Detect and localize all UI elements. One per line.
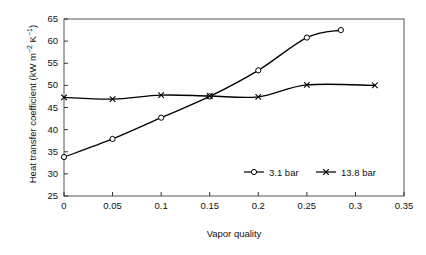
data-point-3-1-bar bbox=[338, 27, 343, 32]
data-point-3-1-bar bbox=[159, 115, 164, 120]
data-point-3-1-bar bbox=[256, 68, 261, 73]
data-point-3-1-bar bbox=[304, 35, 309, 40]
data-point-3-1-bar bbox=[61, 154, 66, 159]
series-line-3-1-bar bbox=[64, 30, 341, 157]
chart-figure: Heat transfer coefficient (kW m−2 K−1) V… bbox=[0, 0, 426, 255]
plot-area: 3.1 bar13.8 bar bbox=[0, 0, 426, 255]
legend-marker-0 bbox=[251, 169, 256, 174]
data-point-3-1-bar bbox=[110, 136, 115, 141]
legend-label-0: 3.1 bar bbox=[269, 167, 299, 178]
legend-label-1: 13.8 bar bbox=[341, 167, 376, 178]
